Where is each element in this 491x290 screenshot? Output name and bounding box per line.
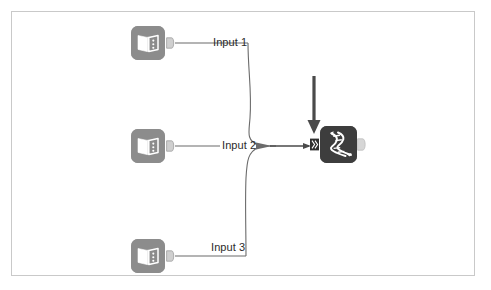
source-node-input-1[interactable]: [131, 26, 165, 60]
target-node-dna[interactable]: [320, 126, 357, 163]
output-port-target[interactable]: [357, 138, 367, 151]
edge-label-input-1: Input 1: [213, 36, 247, 48]
book-icon: [131, 26, 165, 60]
source-node-input-3[interactable]: [131, 239, 165, 273]
output-port-input-3[interactable]: [166, 250, 175, 262]
dna-helix-icon: [320, 126, 357, 163]
source-node-input-2[interactable]: [131, 129, 165, 163]
output-port-input-2[interactable]: [166, 140, 175, 152]
output-port-input-1[interactable]: [166, 37, 175, 49]
book-icon: [131, 239, 165, 273]
book-icon: [131, 129, 165, 163]
edge-label-input-2: Input 2: [222, 139, 256, 151]
merge-input-port-icon[interactable]: [309, 138, 320, 151]
edge-label-input-3: Input 3: [211, 241, 245, 253]
